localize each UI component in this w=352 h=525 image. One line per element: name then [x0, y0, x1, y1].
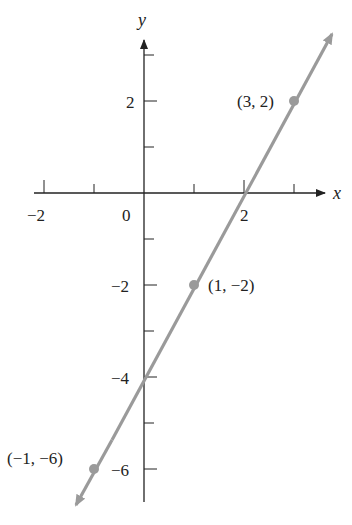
point-label: (1, −2): [208, 276, 254, 295]
y-tick-label: 2: [126, 93, 135, 112]
x-axis-label: x: [332, 183, 341, 203]
point-label: (−1, −6): [7, 449, 63, 468]
x-ticks: [44, 180, 294, 193]
data-point: [189, 280, 199, 290]
x-tick-label: 0: [122, 206, 131, 225]
point-label: (3, 2): [237, 92, 274, 111]
y-tick-label: −4: [111, 369, 130, 388]
x-tick-label: 2: [240, 206, 249, 225]
y-tick-label: −6: [111, 461, 129, 480]
y-ticks: [144, 55, 157, 469]
x-tick-label: −2: [27, 206, 45, 225]
y-axis-label: y: [136, 10, 146, 30]
data-point: [89, 464, 99, 474]
data-point: [289, 96, 299, 106]
coordinate-plane: x y −2 0 2 2 −2 −4 −6 (3, 2) (1, −2) (−1…: [0, 0, 352, 525]
data-line: [112, 34, 332, 440]
y-tick-label: −2: [111, 277, 129, 296]
